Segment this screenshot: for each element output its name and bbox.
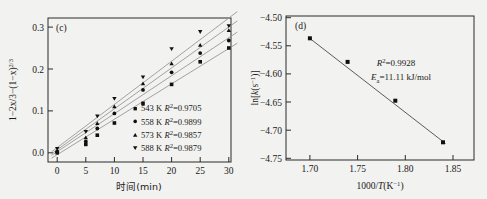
panel-c-y-axis-title: 1−2x/3−(1−x)2/3 [7,58,19,121]
data-point-1 [308,36,312,40]
panel-c-xtick-0: 0 [55,166,60,176]
panel-d-plot: 1.70 1.75 1.80 1.85 −4.50 −4.55 −4.60 −4… [244,0,487,199]
panel-d-ytick-4: −4.70 [260,126,282,136]
annotation-ea-value: =11.11 kJ/mol [380,72,432,82]
panel-c-ytick-2: 0.2 [32,65,44,75]
legend-entry-588k: 588 K R2=0.9879 [141,142,201,153]
panel-c-x-tickmarks [57,157,229,162]
panel-c-plot: 0 5 10 15 20 25 30 0.0 0.1 0.2 0.3 (c) 1… [0,0,244,199]
panel-d-axes-frame [286,16,474,160]
legend-marker-573k [133,133,137,137]
panel-c-y-tick-labels: 0.0 0.1 0.2 0.3 [32,23,44,159]
panel-d-xlabel-unit-end: ) [400,181,403,192]
panel-c-ytick-1: 0.1 [32,106,44,116]
panel-c-label: (c) [56,23,67,34]
panel-d-xlabel-prefix: 1000/ [356,181,378,191]
panel-c-xtick-3: 15 [138,166,148,176]
panel-d-y-tickmarks [286,18,291,159]
panel-d-regression-line [308,37,446,144]
panel-d-xtick-0: 1.70 [302,164,319,174]
panel-d-ytick-5: −4.75 [260,154,282,164]
panel-d-x-tickmarks [310,155,453,160]
panel-c-x-axis-title: 时间(min) [116,181,161,192]
legend-marker-543k [134,107,137,110]
data-point-3 [393,99,397,103]
legend-temp-543k: 543 K [141,103,163,113]
legend-temp-558k: 558 K [141,117,163,127]
legend-r2-value-588k: =0.9879 [173,143,201,153]
panel-c-axes-frame [48,18,231,162]
legend-entry-573k: 573 K R2=0.9857 [141,129,202,140]
panel-d-xlabel-unit-sup: −1 [393,180,400,187]
data-point-2 [346,60,350,64]
panel-d-y-tick-labels: −4.50 −4.55 −4.60 −4.65 −4.70 −4.75 [260,13,282,164]
panel-d-xtick-1: 1.75 [349,164,366,174]
legend-marker-558k [133,120,137,124]
panel-d-xlabel-unit: (K [383,181,393,192]
panel-d-x-tick-labels: 1.70 1.75 1.80 1.85 [302,164,462,174]
annotation-activation-energy: Ea=11.11 kJ/mol [370,72,431,84]
legend-r2-value-543k: =0.9705 [173,103,201,113]
panel-c-xtick-1: 5 [83,166,88,176]
panel-c-legend: 543 K R2=0.9705 558 K R2=0.9899 573 K R2… [133,102,202,153]
panel-d-ytick-1: −4.55 [260,41,282,51]
panel-d-ytick-3: −4.65 [260,98,282,108]
svg-text:ln[k(s−1)]: ln[k(s−1)] [249,71,261,106]
panel-d-x-axis-title: 1000/T(K−1) [356,180,403,192]
panel-c-ytick-0: 0.0 [32,148,44,158]
panel-c-ytick-3: 0.3 [32,23,44,33]
legend-temp-573k: 573 K [141,130,163,140]
legend-r2-value-573k: =0.9857 [173,130,202,140]
panel-c-x-tick-labels: 0 5 10 15 20 25 30 [55,166,234,176]
panel-d-y-axis-title: ln[k(s−1)] [249,71,261,106]
panel-d-ytick-0: −4.50 [260,13,282,23]
svg-text:1−2x/3−(1−x)2/3: 1−2x/3−(1−x)2/3 [7,58,19,121]
annotation-r-squared: R2=0.9928 [376,57,416,68]
legend-entry-558k: 558 K R2=0.9899 [141,116,201,127]
annotation-r2-value: =0.9928 [385,58,415,68]
panel-d: 1.70 1.75 1.80 1.85 −4.50 −4.55 −4.60 −4… [244,0,487,199]
panel-d-xtick-3: 1.85 [445,164,462,174]
panel-d-annotations: R2=0.9928 Ea=11.11 kJ/mol [370,57,431,84]
panel-c-ylabel-prefix: 1−2x/3−(1−x) [8,67,19,121]
panel-c-xtick-5: 25 [195,166,205,176]
panel-c-xtick-6: 30 [224,166,234,176]
figure-container: 0 5 10 15 20 25 30 0.0 0.1 0.2 0.3 (c) 1… [0,0,487,199]
legend-marker-588k [133,146,137,150]
legend-r2-value-558k: =0.9899 [173,117,201,127]
legend-entry-543k: 543 K R2=0.9705 [141,102,201,113]
panel-c-xtick-4: 20 [167,166,177,176]
legend-temp-588k: 588 K [141,143,163,153]
panel-c-ylabel-exponent: 2/3 [7,58,14,67]
panel-d-ytick-2: −4.60 [260,69,282,79]
panel-c-y-tickmarks [48,27,53,153]
fit-line-543k [52,43,238,158]
panel-d-xtick-2: 1.80 [397,164,414,174]
panel-d-label: (d) [295,21,306,32]
panel-c: 0 5 10 15 20 25 30 0.0 0.1 0.2 0.3 (c) 1… [0,0,244,199]
data-point-4 [441,140,445,144]
panel-c-xtick-2: 10 [110,166,120,176]
